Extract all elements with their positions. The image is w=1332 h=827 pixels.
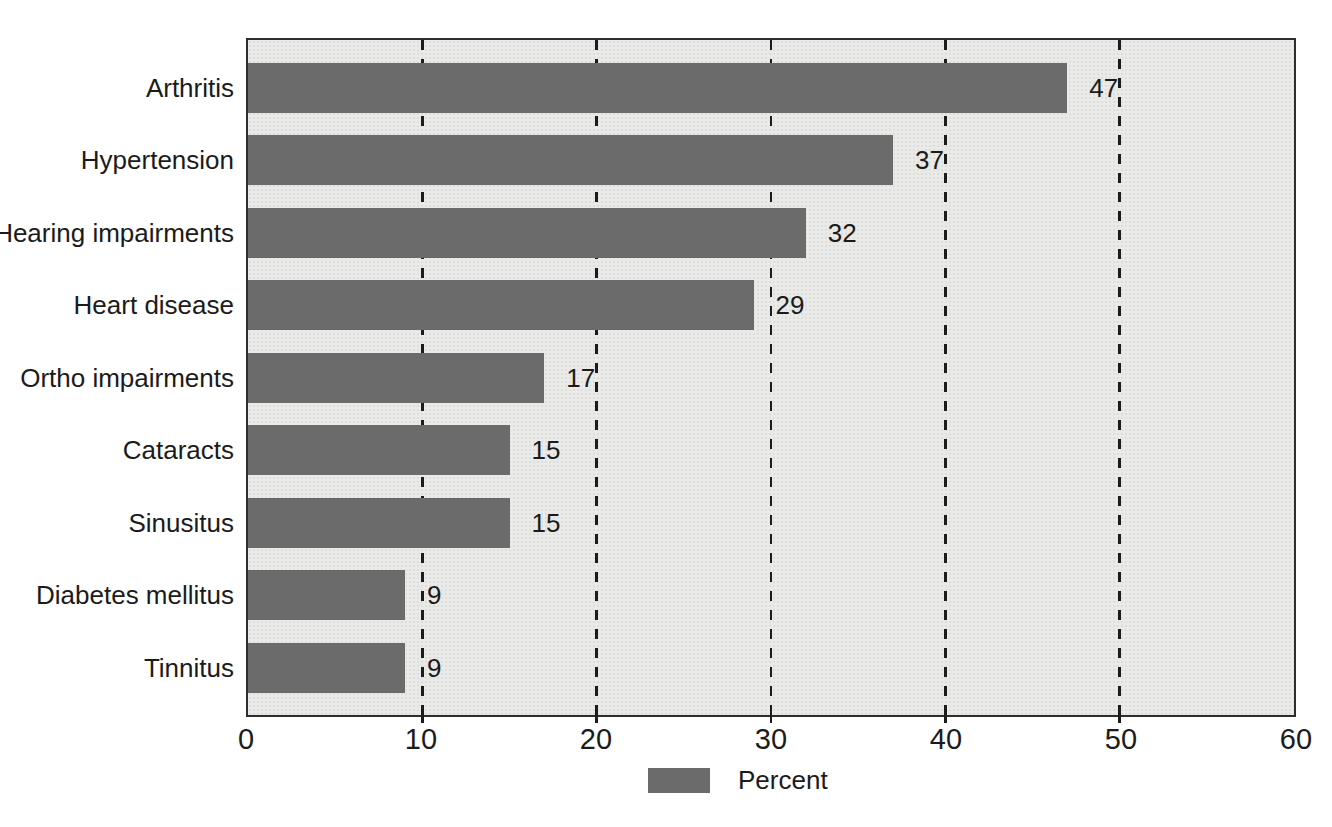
value-label: 32 [828,208,857,258]
axis-tick-mark-40 [944,715,947,723]
bar-row: Arthritis47 [248,63,1294,113]
bar-row: Ortho impairments17 [248,353,1294,403]
x-tick-label-50: 50 [1105,723,1137,756]
legend: Percent [648,765,828,796]
category-label: Hearing impairments [0,217,234,248]
value-label: 9 [427,643,441,693]
value-label: 37 [915,135,944,185]
bar [248,353,544,403]
bar-chart-figure: Arthritis47Hypertension37Hearing impairm… [0,0,1332,827]
category-label: Diabetes mellitus [36,580,234,611]
axis-tick-mark-50 [1118,715,1121,723]
legend-swatch-icon [648,768,710,793]
value-label: 29 [776,280,805,330]
category-label: Hypertension [81,145,234,176]
bar [248,280,754,330]
value-label: 15 [532,498,561,548]
x-tick-label-10: 10 [405,723,437,756]
value-label: 47 [1089,63,1118,113]
x-axis-tick-labels: 0102030405060 [246,723,1296,763]
category-label: Sinusitus [129,507,235,538]
x-tick-label-40: 40 [930,723,962,756]
bar-row: Sinusitus15 [248,498,1294,548]
category-label: Heart disease [74,290,234,321]
value-label: 17 [566,353,595,403]
category-label: Tinnitus [144,652,234,683]
bar [248,425,510,475]
value-label: 15 [532,425,561,475]
bar-row: Diabetes mellitus9 [248,570,1294,620]
category-label: Cataracts [123,435,234,466]
bar-rows-container: Arthritis47Hypertension37Hearing impairm… [248,40,1294,715]
axis-tick-mark-30 [770,715,773,723]
bar-row: Heart disease29 [248,280,1294,330]
category-label: Ortho impairments [20,362,234,393]
legend-label: Percent [738,765,828,796]
x-tick-label-0: 0 [238,723,254,756]
value-label: 9 [427,570,441,620]
bar [248,643,405,693]
bar [248,63,1067,113]
bar [248,208,806,258]
x-tick-label-20: 20 [580,723,612,756]
bar-row: Hypertension37 [248,135,1294,185]
plot-area: Arthritis47Hypertension37Hearing impairm… [246,38,1296,717]
bar-row: Tinnitus9 [248,643,1294,693]
bar [248,498,510,548]
x-tick-label-30: 30 [755,723,787,756]
bar [248,135,893,185]
category-label: Arthritis [146,72,234,103]
bar-row: Cataracts15 [248,425,1294,475]
bar [248,570,405,620]
axis-tick-mark-10 [421,715,424,723]
x-tick-label-60: 60 [1280,723,1312,756]
axis-tick-mark-20 [595,715,598,723]
bar-row: Hearing impairments32 [248,208,1294,258]
